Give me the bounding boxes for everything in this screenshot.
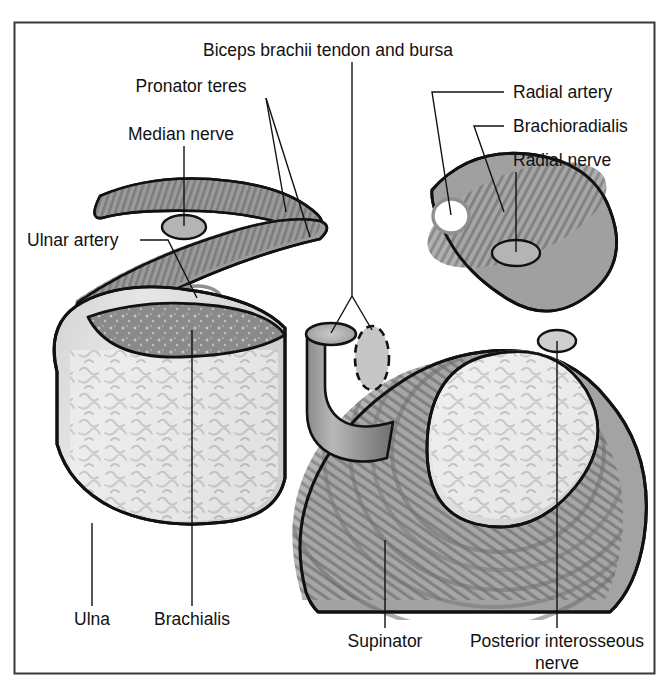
label-biceps-tendon-bursa: Biceps brachii tendon and bursa — [203, 40, 453, 60]
biceps-bursa — [355, 326, 389, 390]
label-radial-nerve: Radial nerve — [513, 150, 611, 170]
label-brachialis: Brachialis — [154, 609, 230, 629]
label-posterior-interosseous-nerve-line2: nerve — [535, 653, 579, 673]
label-radial-artery: Radial artery — [513, 82, 612, 102]
label-brachioradialis: Brachioradialis — [513, 116, 628, 136]
label-ulna: Ulna — [74, 609, 110, 629]
label-posterior-interosseous-nerve-line1: Posterior interosseous — [470, 631, 644, 651]
radial-artery-marker — [433, 199, 469, 233]
label-ulnar-artery: Ulnar artery — [27, 230, 119, 250]
label-pronator-teres: Pronator teres — [136, 76, 247, 96]
anatomy-figure: Biceps brachii tendon and bursa Pronator… — [0, 0, 670, 695]
label-supinator: Supinator — [348, 631, 423, 651]
label-median-nerve: Median nerve — [128, 124, 234, 144]
